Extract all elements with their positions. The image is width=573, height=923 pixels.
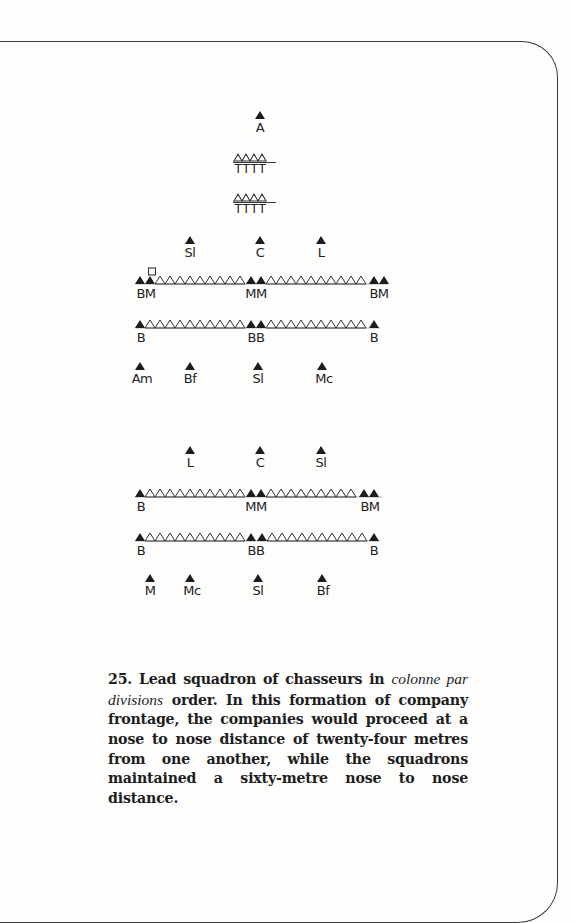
officer-label: Sl [185,246,196,259]
rank-label: B [137,544,145,557]
rank-2-bottom-icon [135,533,380,541]
officer-label: Sl [316,456,327,469]
rank-label: BB [248,331,265,344]
rank-label: BB [248,544,265,557]
trumpeter-label: T [251,163,258,175]
rear-label: M [145,584,156,597]
officer-label: C [256,246,265,259]
rear-label: Bf [317,584,330,597]
rank-label: BM [136,287,155,300]
officer-label: L [187,456,194,469]
rear-label: Sl [253,584,264,597]
rear-label: Bf [184,372,197,385]
caption-text: order. In this formation of company fron… [108,692,468,806]
rank-label: B [137,331,145,344]
officer-label: C [256,456,265,469]
rear-label: Sl [253,372,264,385]
rank-1-top-icon [135,268,389,284]
trumpeter-label: T [243,203,250,215]
trumpeter-label: T [251,203,258,215]
formation-symbols [0,0,573,640]
caption-text: Lead squadron of chasseurs in [139,671,384,687]
leader-icon [255,111,265,119]
figure-caption: 25. Lead squadron of chasseurs in colonn… [108,669,468,808]
rank-2-top-icon [135,320,380,328]
rank-label: B [137,500,145,513]
rank-label: MM [245,287,266,300]
trumpeter-label: T [243,163,250,175]
rank-label: B [370,331,378,344]
rank-label: BM [369,287,388,300]
trumpeter-label: T [235,163,242,175]
rank-label: B [370,544,378,557]
figure-number: 25. [108,671,132,687]
rank-label: MM [245,500,266,513]
formation-diagram: A T T T T T T T T Sl C L BM MM BM B BB B… [0,0,573,640]
trumpeter-label: T [235,203,242,215]
officer-label: L [318,246,325,259]
trumpeter-label: T [259,203,266,215]
rear-label: Mc [315,372,332,385]
rank-label: BM [360,500,379,513]
rank-1-bottom-icon [135,489,382,497]
leader-label: A [256,121,264,134]
rear-label: Am [132,372,153,385]
trumpeter-label: T [259,163,266,175]
rear-label: Mc [183,584,200,597]
